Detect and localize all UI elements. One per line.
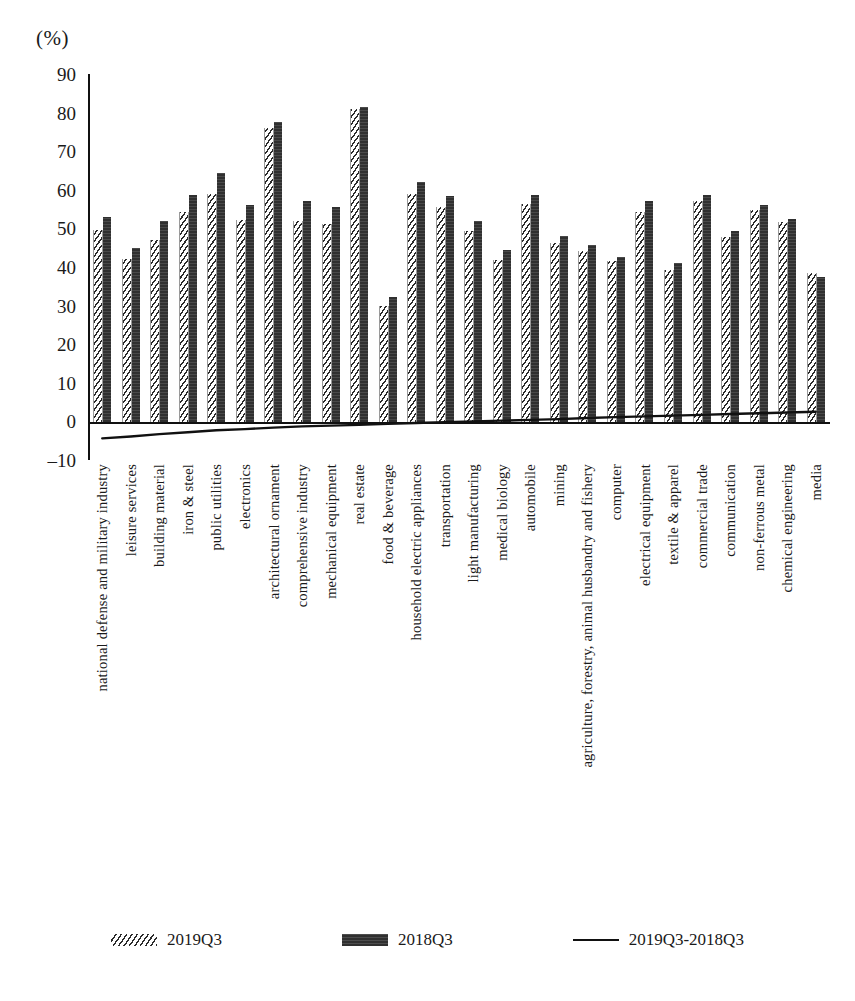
bar-chart: (%) 9080706050403020100–10 national defe… bbox=[0, 0, 855, 1001]
y-axis-unit-label: (%) bbox=[36, 26, 69, 51]
legend-item: 2019Q3-2018Q3 bbox=[573, 930, 744, 950]
x-axis-category-label: comprehensive industry bbox=[295, 464, 310, 607]
x-axis-category-label: household electric appliances bbox=[409, 464, 424, 641]
y-axis-tick: 0 bbox=[67, 412, 77, 431]
legend-label: 2019Q3-2018Q3 bbox=[629, 930, 744, 950]
x-axis-category-label: light manufacturing bbox=[466, 464, 481, 583]
legend-label: 2018Q3 bbox=[398, 930, 453, 950]
x-axis-category-label: mechanical equipment bbox=[324, 464, 339, 599]
y-axis-tick: 30 bbox=[57, 296, 76, 315]
difference-line bbox=[102, 412, 815, 439]
y-axis-tick: 80 bbox=[57, 103, 76, 122]
y-axis-tick: 90 bbox=[57, 65, 76, 84]
x-axis-category-label: iron & steel bbox=[181, 464, 196, 535]
x-axis-category-label: building material bbox=[152, 464, 167, 567]
x-axis-category-label: leisure services bbox=[124, 464, 139, 556]
x-axis-category-label: electronics bbox=[238, 464, 253, 529]
x-axis-category-label: medical biology bbox=[495, 464, 510, 561]
y-axis-tick-labels: 9080706050403020100–10 bbox=[0, 74, 84, 460]
x-axis-category-label: communication bbox=[723, 464, 738, 557]
x-axis-category-label: chemical engineering bbox=[780, 464, 795, 592]
x-axis-category-label: textile & apparel bbox=[666, 464, 681, 565]
y-axis-tick: –10 bbox=[48, 451, 77, 470]
x-axis-category-label: commercial trade bbox=[695, 464, 710, 568]
plot-area bbox=[88, 74, 830, 460]
y-axis-tick: 10 bbox=[57, 373, 76, 392]
line-swatch bbox=[573, 934, 619, 946]
y-axis-tick: 60 bbox=[57, 180, 76, 199]
x-axis-category-label: agriculture, forestry, animal husbandry … bbox=[580, 464, 595, 768]
chart-legend: 2019Q32018Q32019Q3-2018Q3 bbox=[0, 930, 855, 950]
x-axis-category-label: non-ferrous metal bbox=[752, 464, 767, 571]
hatch-swatch bbox=[111, 934, 157, 946]
y-axis-tick: 50 bbox=[57, 219, 76, 238]
x-axis-category-labels: national defense and military industryle… bbox=[88, 464, 830, 884]
y-axis-tick: 70 bbox=[57, 142, 76, 161]
x-axis-category-label: electrical equipment bbox=[638, 464, 653, 586]
x-axis-category-label: media bbox=[809, 464, 824, 500]
legend-item: 2019Q3 bbox=[111, 930, 222, 950]
x-axis-category-label: public utilities bbox=[209, 464, 224, 551]
y-axis-tick: 20 bbox=[57, 335, 76, 354]
x-axis-category-label: architectural ornament bbox=[267, 464, 282, 599]
difference-line-series bbox=[88, 74, 830, 460]
legend-item: 2018Q3 bbox=[342, 930, 453, 950]
x-axis-category-label: national defense and military industry bbox=[95, 464, 110, 691]
x-axis-category-label: transportation bbox=[438, 464, 453, 547]
x-axis-category-label: computer bbox=[609, 464, 624, 520]
x-axis-category-label: real estate bbox=[352, 464, 367, 525]
solid-swatch bbox=[342, 934, 388, 946]
x-axis-category-label: food & beverage bbox=[381, 464, 396, 564]
x-axis-category-label: automobile bbox=[523, 464, 538, 531]
x-axis-category-label: mining bbox=[552, 464, 567, 506]
legend-label: 2019Q3 bbox=[167, 930, 222, 950]
y-axis-tick: 40 bbox=[57, 258, 76, 277]
